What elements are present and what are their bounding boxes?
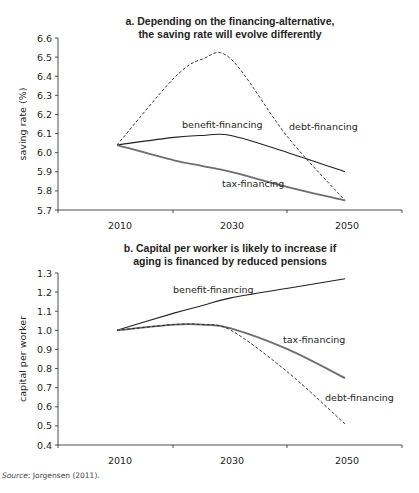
benefit-financing-line: [117, 134, 345, 172]
source-note: Source: Jorgensen (2011).: [2, 471, 100, 480]
y-tick-label: 6.5: [37, 52, 52, 63]
x-tick-label: 2050: [335, 455, 359, 466]
debt-financing-label: debt-financing: [289, 121, 358, 132]
y-tick-label: 5.7: [37, 205, 52, 216]
tax-financing-label: tax-financing: [222, 178, 284, 189]
y-tick-label: 5.9: [37, 166, 52, 177]
benefit-financing-label: benefit-financing: [173, 284, 254, 295]
tax-financing-line: [117, 324, 345, 378]
y-tick-label: 6.6: [37, 33, 52, 44]
y-tick-label: 6.4: [37, 71, 52, 82]
y-tick-label: 6.1: [37, 128, 52, 139]
y-tick-label: 0.7: [37, 382, 52, 393]
x-tick-label: 2030: [220, 455, 244, 466]
chart-b: 1.31.21.11.00.90.80.70.60.50.42010203020…: [17, 268, 402, 467]
y-axis-label: saving rate (%): [17, 88, 28, 161]
y-tick-label: 0.4: [37, 440, 52, 451]
x-tick-label: 2010: [108, 455, 132, 466]
x-tick-label: 2010: [108, 220, 132, 231]
y-tick-label: 5.8: [37, 185, 52, 196]
charts-canvas: 6.66.56.46.36.26.16.05.95.85.72010203020…: [0, 0, 419, 493]
y-tick-label: 6.3: [37, 90, 52, 101]
y-tick-label: 6.2: [37, 109, 52, 120]
x-tick-label: 2050: [335, 220, 359, 231]
debt-financing-label: debt-financing: [325, 392, 394, 403]
y-tick-label: 1.1: [37, 306, 52, 317]
tax-financing-line: [117, 145, 345, 200]
y-tick-label: 6.0: [37, 147, 52, 158]
chart-a: 6.66.56.46.36.26.16.05.95.85.72010203020…: [17, 33, 402, 232]
source-label: Source:: [2, 471, 30, 480]
source-text: Jorgensen (2011).: [33, 471, 100, 480]
y-axis-label: capital per worker: [17, 316, 28, 402]
y-tick-label: 0.5: [37, 420, 52, 431]
tax-financing-label: tax-financing: [283, 334, 345, 345]
y-tick-label: 1.3: [37, 268, 52, 279]
y-tick-label: 0.9: [37, 344, 52, 355]
y-tick-label: 0.8: [37, 363, 52, 374]
y-tick-label: 0.6: [37, 401, 52, 412]
y-tick-label: 1.2: [37, 287, 52, 298]
benefit-financing-label: benefit-financing: [182, 119, 263, 130]
y-tick-label: 1.0: [37, 325, 52, 336]
x-tick-label: 2030: [220, 220, 244, 231]
